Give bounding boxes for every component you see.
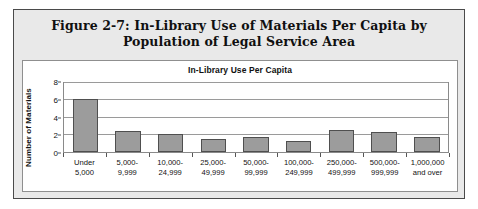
x-axis-category-label: 1,000,000and over — [406, 158, 449, 178]
figure-frame: Figure 2-7: In-Library Use of Materials … — [13, 9, 465, 199]
y-axis-tick-mark — [58, 82, 61, 83]
bar-slot — [277, 83, 320, 152]
x-axis-category-label: Under5,000 — [63, 158, 106, 178]
bar-slot — [149, 83, 192, 152]
x-axis-category-label: 100,000-249,999 — [277, 158, 320, 178]
bars-layer — [64, 83, 448, 152]
bar — [286, 141, 312, 152]
x-axis-tick-mark — [192, 153, 193, 157]
x-axis-tick-mark — [406, 153, 407, 157]
y-axis-tick-mark — [58, 135, 61, 136]
x-axis-category-label-line: 25,000- — [192, 158, 235, 168]
x-axis-tick-mark — [106, 153, 107, 157]
x-axis-category-label-line: Under — [63, 158, 106, 168]
y-axis-tick-mark — [58, 99, 61, 100]
x-axis-category-label-line: 99,999 — [235, 168, 278, 178]
x-axis-category-label-line: 9,999 — [106, 168, 149, 178]
x-axis-category-label-line: 50,000- — [235, 158, 278, 168]
x-axis-category-label-line: 100,000- — [277, 158, 320, 168]
y-axis-tick-mark — [58, 117, 61, 118]
x-axis-category-labels: Under5,0005,000-9,99910,000-24,99925,000… — [63, 158, 449, 178]
bar-slot — [107, 83, 150, 152]
x-axis-category-label-line: 500,000- — [363, 158, 406, 168]
bar-slot — [320, 83, 363, 152]
bar — [414, 137, 440, 152]
x-axis-category-label: 10,000-24,999 — [149, 158, 192, 178]
x-axis-tick-mark — [320, 153, 321, 157]
x-axis-tick-marks — [63, 153, 449, 157]
x-axis-category-label-line: 499,999 — [320, 168, 363, 178]
bar — [371, 132, 397, 152]
bar-slot — [405, 83, 448, 152]
y-axis-title-label: Number of Materials — [24, 88, 33, 167]
figure-title-band: Figure 2-7: In-Library Use of Materials … — [14, 10, 464, 58]
figure-title-line-1: Figure 2-7: In-Library Use of Materials … — [51, 18, 427, 34]
bar — [73, 99, 99, 152]
chart-title: In-Library Use Per Capita — [23, 65, 457, 75]
bar-slot — [192, 83, 235, 152]
x-axis-category-label: 5,000-9,999 — [106, 158, 149, 178]
bar — [201, 139, 227, 152]
x-axis-tick-mark — [63, 153, 64, 157]
x-axis-category-label: 50,000-99,999 — [235, 158, 278, 178]
bar-slot — [64, 83, 107, 152]
x-axis-tick-mark — [235, 153, 236, 157]
x-axis-category-label-line: 5,000 — [63, 168, 106, 178]
x-axis-category-label-line: 1,000,000 — [406, 158, 449, 168]
x-axis-category-label-line: 24,999 — [149, 168, 192, 178]
x-axis-category-label-line: 49,999 — [192, 168, 235, 178]
x-axis-category-label-line: 999,999 — [363, 168, 406, 178]
x-axis-category-label: 250,000-499,999 — [320, 158, 363, 178]
plot-area — [63, 82, 449, 153]
x-axis-category-label-line: 250,000- — [320, 158, 363, 168]
x-axis-tick-mark — [149, 153, 150, 157]
x-axis-category-label-line: and over — [406, 168, 449, 178]
x-axis-tick-mark — [277, 153, 278, 157]
bar — [329, 130, 355, 152]
x-axis-category-label-line: 249,999 — [277, 168, 320, 178]
x-axis-category-label: 25,000-49,999 — [192, 158, 235, 178]
bar — [243, 137, 269, 152]
x-axis-tick-mark — [449, 153, 450, 157]
y-axis-title: Number of Materials — [21, 79, 35, 175]
x-axis-tick-mark — [363, 153, 364, 157]
bar — [158, 134, 184, 152]
x-axis-category-label-line: 5,000- — [106, 158, 149, 168]
bar — [115, 131, 141, 152]
bar-slot — [235, 83, 278, 152]
figure-title-line-2: Population of Legal Service Area — [123, 34, 355, 50]
y-axis-tick-labels: 02468 — [41, 82, 61, 153]
x-axis-category-label: 500,000-999,999 — [363, 158, 406, 178]
x-axis-category-label-line: 10,000- — [149, 158, 192, 168]
chart-panel: In-Library Use Per Capita Number of Mate… — [22, 60, 458, 192]
y-axis-tick-mark — [58, 153, 61, 154]
bar-slot — [363, 83, 406, 152]
